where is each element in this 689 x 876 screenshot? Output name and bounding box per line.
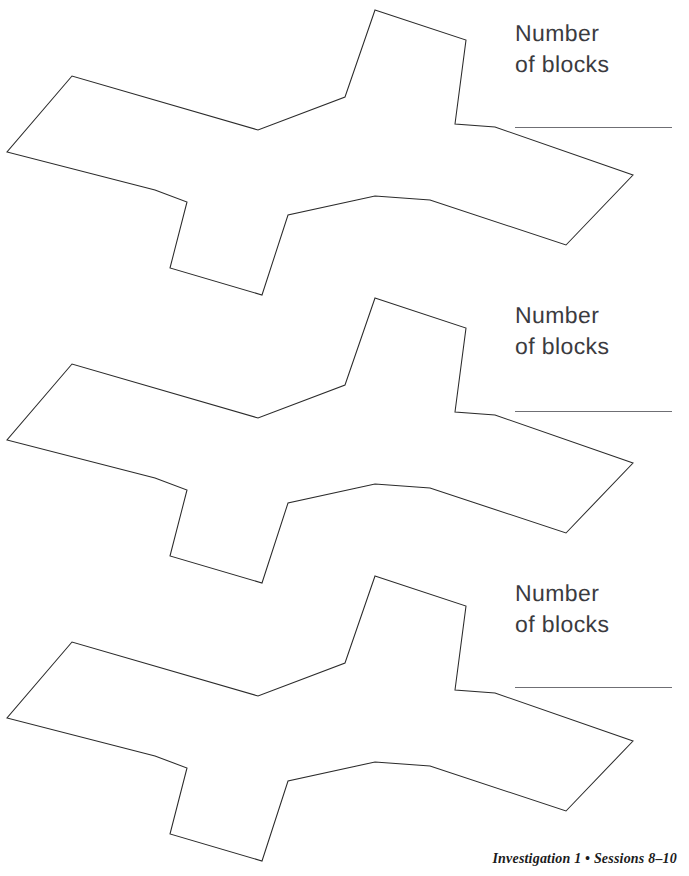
answer-line-1[interactable] <box>515 127 672 128</box>
number-of-blocks-label: Number of blocks <box>515 18 685 80</box>
answer-line-3[interactable] <box>515 687 672 688</box>
block-shapes-layer <box>0 0 689 876</box>
page-footer: Investigation 1 • Sessions 8–10 <box>492 851 677 867</box>
answer-line-2[interactable] <box>515 411 672 412</box>
worksheet-page: Number of blocks Number of blocks Number… <box>0 0 689 876</box>
prompt-block-2: Number of blocks <box>515 300 685 362</box>
prompt-block-1: Number of blocks <box>515 18 685 80</box>
number-of-blocks-label: Number of blocks <box>515 300 685 362</box>
prompt-block-3: Number of blocks <box>515 578 685 640</box>
block-shapes-svg <box>0 0 689 876</box>
number-of-blocks-label: Number of blocks <box>515 578 685 640</box>
